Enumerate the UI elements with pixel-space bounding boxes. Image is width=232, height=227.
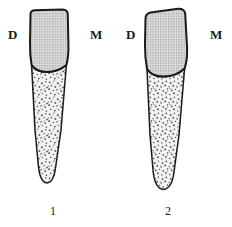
specimen-2-mesial-label: M xyxy=(210,28,222,41)
figure-plate: D M D M 1 2 xyxy=(0,0,232,227)
specimen-1-distal-label: D xyxy=(8,28,17,41)
tooth-2-root xyxy=(136,64,198,196)
specimen-1-number: 1 xyxy=(43,205,63,217)
specimen-2-distal-label: D xyxy=(126,28,135,41)
tooth-1-root xyxy=(20,60,80,190)
specimen-1-mesial-label: M xyxy=(90,28,102,41)
specimen-2-number: 2 xyxy=(158,205,178,217)
